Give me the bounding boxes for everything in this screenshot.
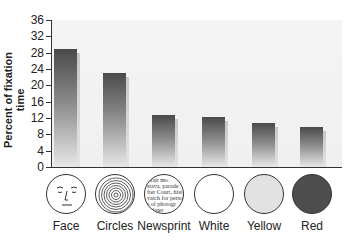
y-tick-label: 20 [20,79,44,91]
y-tick-label: 12 [20,112,44,124]
y-tick-label: 24 [20,63,44,75]
bar-face [54,49,77,167]
bar-newsprint [152,115,175,167]
plot-area [52,20,342,167]
newsprint-stimulus-icon: rtrait mostava, paradefter Court, histva… [144,174,184,214]
yellow-disc-stimulus-icon [244,174,284,214]
y-tick-label: 28 [20,47,44,59]
y-tick-label: 4 [20,145,44,157]
face-stimulus-icon [46,174,86,214]
y-tick-label: 36 [20,14,44,26]
bar-circles [103,73,126,167]
newsprint-line: le later [147,207,183,213]
y-tick-label: 8 [20,128,44,140]
y-tick-label: 0 [20,161,44,173]
red-disc-stimulus-icon [292,174,332,214]
bar-red [300,127,323,167]
y-tick-label: 16 [20,96,44,108]
stimulus-label-red: Red [282,219,342,233]
y-tick-label: 32 [20,30,44,42]
bar-white [202,117,225,167]
bar-yellow [252,123,275,167]
y-axis-line [51,20,52,168]
white-disc-stimulus-icon [194,174,234,214]
newsprint-text: rtrait mostava, paradefter Court, histva… [145,175,183,213]
concentric-circles-stimulus-icon [95,174,135,214]
x-axis-line [51,167,342,168]
